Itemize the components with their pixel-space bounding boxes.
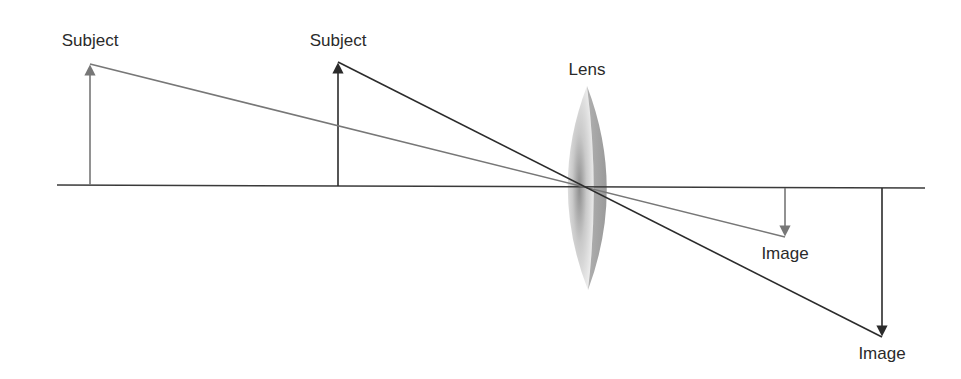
lens-label: Lens bbox=[569, 60, 606, 80]
image-far-label: Image bbox=[858, 344, 905, 364]
optical-axis bbox=[57, 185, 925, 188]
ray-far bbox=[90, 64, 785, 237]
subject-far-label: Subject bbox=[62, 31, 119, 51]
subject-near-label: Subject bbox=[310, 31, 367, 51]
lens-diagram bbox=[0, 0, 961, 379]
image-near-label: Image bbox=[761, 244, 808, 264]
ray-near bbox=[338, 62, 882, 337]
